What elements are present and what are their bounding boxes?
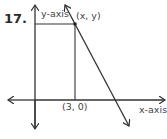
x-axis-label: x-axis [139,104,167,115]
x-intercept-label: (3, 0) [62,101,88,112]
diagram: 17. y-axis (x, y) (3, 0) x-axis [0,0,167,139]
point-dot [73,22,77,26]
point-label: (x, y) [76,10,101,21]
problem-number: 17. [4,11,27,26]
y-axis-label: y-axis [41,8,69,19]
